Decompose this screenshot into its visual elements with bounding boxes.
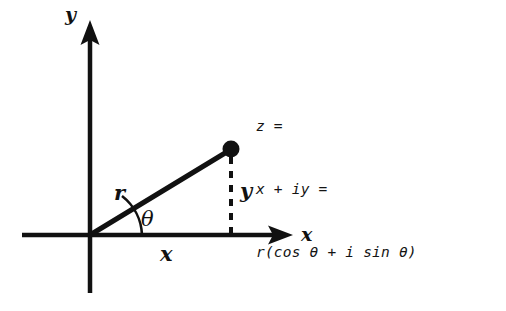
vertical-leg-label: y: [239, 178, 254, 203]
equation-line-3: r(cos θ + i sin θ): [256, 242, 504, 263]
radius-vector-line: [90, 150, 230, 235]
y-axis-label: y: [64, 3, 78, 25]
equation-block: z = x + iy = r(cos θ + i sin θ): [256, 74, 504, 305]
figure-root: y x r θ x y z = x + iy = r(cos θ + i sin…: [0, 0, 506, 311]
horizontal-leg-label: x: [159, 241, 173, 266]
radius-label: r: [114, 180, 127, 205]
angle-label: θ: [141, 207, 154, 231]
equation-line-2: x + iy =: [256, 179, 504, 200]
equation-line-1: z =: [256, 116, 504, 137]
z-point-marker[interactable]: [223, 141, 240, 158]
